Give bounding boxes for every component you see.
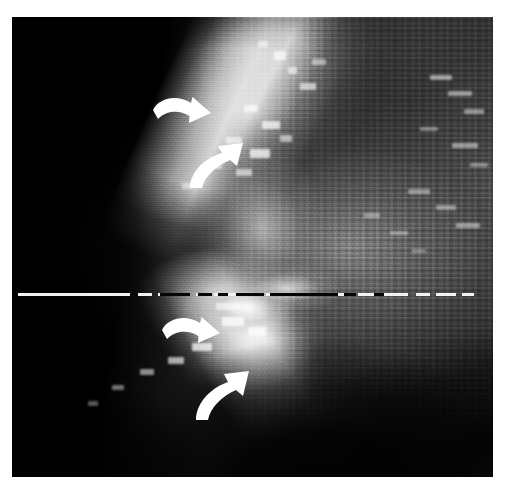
baseline-dash-segment [18,293,130,296]
bright-speckle-spot [452,143,478,148]
bright-speck-layer [12,17,493,477]
annotation-arrow-lower-right[interactable] [190,369,252,421]
bright-speckle-spot [300,83,316,90]
bright-speckle-spot [430,75,452,80]
horizontal-streak-layer [12,17,493,477]
bright-speckle-spot [464,109,484,114]
bright-speckle-spot [420,127,438,131]
baseline-dash-segment [416,293,430,296]
bright-speckle-spot [390,231,408,235]
upper-bright-band-highlight [12,17,493,477]
baseline-dash-segment [344,293,356,296]
bright-speckle-spot [112,385,124,390]
bright-speckle-spot [448,91,472,96]
bright-speckle-spot [412,249,426,253]
bright-speckle-spot [88,401,98,406]
central-bright-core-layer [12,17,493,477]
baseline-dash-segment [436,293,456,296]
film-grain-layer [12,17,493,477]
lower-bright-band-layer [12,17,493,477]
scan-base-field-layer [12,17,493,477]
bright-speckle-spot [168,357,184,364]
bright-speckle-spot [216,303,240,310]
bright-speckle-spot [364,213,380,218]
baseline-dash-segment [218,293,228,296]
baseline-dash-segment [270,293,338,296]
annotation-arrow-upper-left[interactable] [151,93,213,137]
bright-speckle-spot [258,41,268,47]
baseline-dash-segment [462,293,474,296]
baseline-dash-segment [236,293,264,296]
bright-speckle-spot [408,189,430,194]
bright-speckle-spot [288,67,297,74]
bright-speckle-spot [248,327,266,335]
bright-speckle-spot [262,121,280,129]
figure-root [0,0,507,492]
baseline-dash-segment [358,293,374,296]
bright-speckle-spot [280,135,292,142]
baseline-dash-segment [160,293,190,296]
bright-speckle-spot [470,163,488,167]
right-speckle-texture-layer [12,17,493,477]
annotation-arrow-lower-left[interactable] [160,313,222,357]
upper-bright-band-layer [12,17,493,477]
scan-image-plate[interactable] [12,17,493,477]
baseline-dash-segment [138,293,152,296]
bright-speckle-spot [222,317,244,326]
bright-speckle-spot [140,369,154,375]
horizontal-dashed-reference-line [12,293,493,296]
baseline-dash-segment [198,293,212,296]
bottom-right-shadow-layer [12,17,493,477]
bright-speckle-spot [250,149,270,158]
annotation-arrow-upper-right[interactable] [184,141,246,189]
bright-speckle-spot [274,51,286,60]
baseline-dash-segment [384,293,408,296]
lower-bright-band-highlight [12,17,493,477]
bright-speckle-spot [244,105,258,112]
upper-left-shadow-layer [12,17,493,477]
bright-speckle-spot [436,205,456,210]
bright-speckle-spot [312,59,326,65]
bright-speckle-spot [456,223,480,228]
